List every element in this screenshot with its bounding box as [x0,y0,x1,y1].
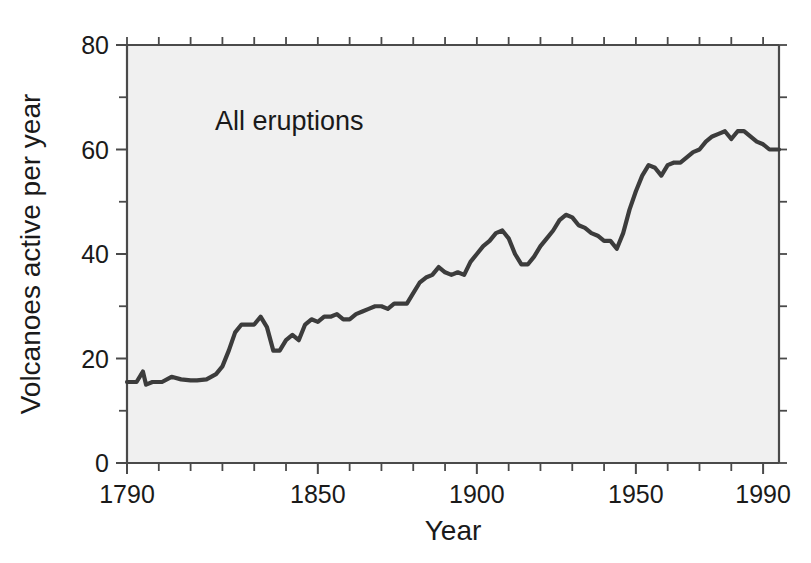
x-axis-title: Year [425,515,482,546]
y-axis-tick-labels: 020406080 [81,31,109,477]
x-axis-tick-labels: 17901850190019501990 [99,480,791,508]
y-tick-label: 60 [81,136,109,164]
x-tick-label: 1950 [608,480,664,508]
y-tick-label: 40 [81,240,109,268]
x-tick-label: 1790 [99,480,155,508]
y-axis-title: Volcanoes active per year [15,94,46,415]
x-tick-label: 1900 [449,480,505,508]
line-chart: 020406080 17901850190019501990 All erupt… [0,0,811,563]
y-tick-label: 20 [81,345,109,373]
x-tick-label: 1990 [735,480,791,508]
figure-container: 020406080 17901850190019501990 All erupt… [0,0,811,563]
y-tick-label: 80 [81,31,109,59]
plot-annotation-all-eruptions: All eruptions [215,106,364,136]
x-tick-label: 1850 [290,480,346,508]
y-tick-label: 0 [95,449,109,477]
